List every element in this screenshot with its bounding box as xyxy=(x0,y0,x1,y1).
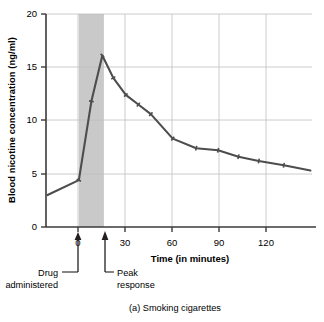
y-tick-label-0: 0 xyxy=(32,221,37,232)
y-axis-title: Blood nicotine concentration (ng/ml) xyxy=(7,37,17,203)
figure-container: 20 15 10 5 0 0 30 60 90 120 Blood nicoti… xyxy=(0,0,324,322)
peak-response-arrowhead xyxy=(102,231,109,240)
x-axis-title: Time (in minutes) xyxy=(151,253,229,264)
figure-caption: (a) Smoking cigarettes xyxy=(129,303,221,313)
drug-administered-label-line2: administered xyxy=(5,280,58,290)
y-tick-label-15: 15 xyxy=(26,61,37,72)
data-point-marker xyxy=(218,148,219,153)
peak-response-label-line1: Peak xyxy=(117,268,138,278)
x-tick-label-60: 60 xyxy=(167,237,178,248)
peak-response-label-line2: response xyxy=(117,280,155,290)
nicotine-concentration-chart: 20 15 10 5 0 0 30 60 90 120 Blood nicoti… xyxy=(0,0,324,322)
x-tick-label-90: 90 xyxy=(214,237,225,248)
y-tick-label-5: 5 xyxy=(32,168,37,179)
data-point-marker xyxy=(283,163,284,168)
drug-administered-annotation: Drug administered xyxy=(5,232,81,290)
data-point-marker xyxy=(89,101,94,102)
y-tick-label-10: 10 xyxy=(26,114,37,125)
x-tick-label-120: 120 xyxy=(258,237,274,248)
drug-administered-label-line1: Drug xyxy=(38,268,58,278)
shaded-smoking-period xyxy=(79,14,104,227)
data-point-marker xyxy=(258,159,259,164)
y-tick-label-20: 20 xyxy=(26,8,37,19)
drug-administered-arrowhead xyxy=(75,232,82,240)
x-tick-label-30: 30 xyxy=(120,237,131,248)
